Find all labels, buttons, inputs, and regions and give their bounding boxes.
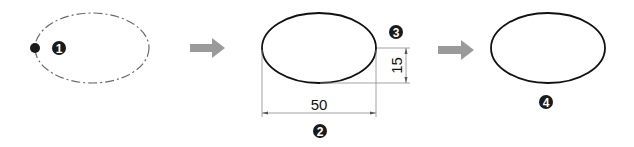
badge-2: 2: [313, 124, 327, 139]
ellipse-drawing-diagram: 1 50 15 3: [0, 0, 634, 147]
right-arrow-icon: [438, 40, 474, 60]
height-dimension-label: 15: [388, 57, 405, 74]
result-ellipse: [491, 13, 605, 83]
badge-3: 3: [389, 25, 403, 40]
svg-text:2: 2: [317, 125, 324, 139]
svg-text:3: 3: [393, 26, 400, 40]
badge-1: 1: [52, 41, 66, 56]
svg-text:1: 1: [56, 42, 63, 56]
step-1-group: 1: [30, 13, 149, 83]
badge-4: 4: [539, 95, 553, 110]
step-2-3-group: 50 15 3 2: [262, 13, 410, 139]
right-arrow-icon: [190, 38, 225, 58]
svg-text:4: 4: [543, 96, 550, 110]
start-point-dot: [30, 43, 40, 53]
dimensioned-ellipse: [262, 13, 376, 83]
step-4-group: 4: [491, 13, 605, 110]
width-dimension-label: 50: [311, 96, 328, 113]
